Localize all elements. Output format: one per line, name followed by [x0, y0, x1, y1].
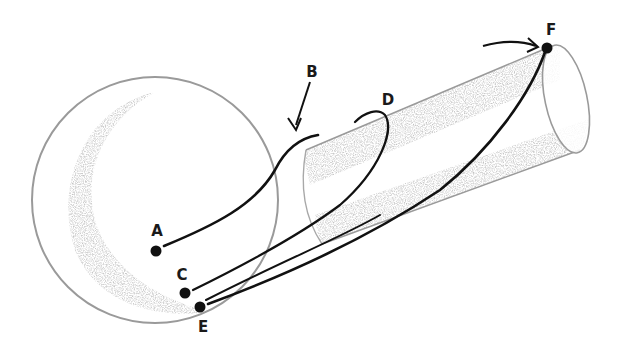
label-b: B — [306, 65, 317, 80]
label-d: D — [382, 93, 394, 108]
label-f: F — [546, 23, 556, 38]
point-a — [151, 246, 162, 257]
diagram-canvas: A B C D E F — [0, 0, 624, 354]
sphere — [32, 77, 278, 323]
point-f — [542, 43, 553, 54]
point-e — [195, 302, 206, 313]
curve-e-f-2 — [206, 215, 380, 300]
cylinder-bottom-edge — [322, 150, 580, 244]
point-c — [180, 288, 191, 299]
curve-a-b — [164, 135, 318, 246]
cylinder — [300, 40, 600, 250]
label-e: E — [198, 320, 208, 335]
arrow-b — [288, 82, 310, 130]
arrow-f — [483, 38, 538, 52]
label-a: A — [151, 224, 163, 239]
label-c: C — [176, 268, 187, 283]
sphere-shading — [68, 92, 210, 314]
diagram-svg — [0, 0, 624, 354]
